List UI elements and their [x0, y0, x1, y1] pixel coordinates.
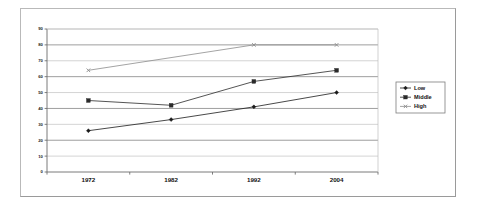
y-tick-label: 0	[40, 169, 43, 174]
line-chart: 9080706050403020100 1972198219922004 Low…	[0, 0, 478, 210]
chart-legend: LowMiddleHigh	[396, 82, 445, 113]
y-tick-label: 80	[38, 42, 43, 47]
y-tick-label: 50	[38, 90, 43, 95]
y-tick-label: 70	[38, 58, 43, 63]
legend-label-middle: Middle	[414, 94, 432, 100]
plot-background	[47, 29, 378, 172]
legend-label-high: High	[414, 103, 427, 109]
y-tick-label: 90	[38, 26, 43, 31]
x-tick-label: 2004	[330, 176, 344, 183]
x-tick-label: 1992	[247, 176, 261, 183]
x-tick-label: 1982	[164, 176, 178, 183]
y-axis-labels: 9080706050403020100	[38, 26, 43, 174]
data-point-marker	[86, 99, 90, 103]
screenshot-root: 9080706050403020100 1972198219922004 Low…	[0, 0, 478, 210]
y-tick-label: 30	[38, 122, 43, 127]
data-point-marker	[404, 95, 408, 99]
data-point-marker	[335, 68, 339, 72]
y-tick-label: 60	[38, 74, 43, 79]
y-tick-label: 10	[38, 154, 43, 159]
chart-canvas: 9080706050403020100 1972198219922004 Low…	[0, 0, 478, 210]
x-tick-label: 1972	[81, 176, 95, 183]
legend-label-low: Low	[414, 85, 426, 91]
data-point-marker	[252, 80, 256, 84]
y-tick-label: 40	[38, 106, 43, 111]
y-tick-label: 20	[38, 138, 43, 143]
data-point-marker	[169, 103, 173, 107]
x-axis-labels: 1972198219922004	[81, 176, 344, 183]
